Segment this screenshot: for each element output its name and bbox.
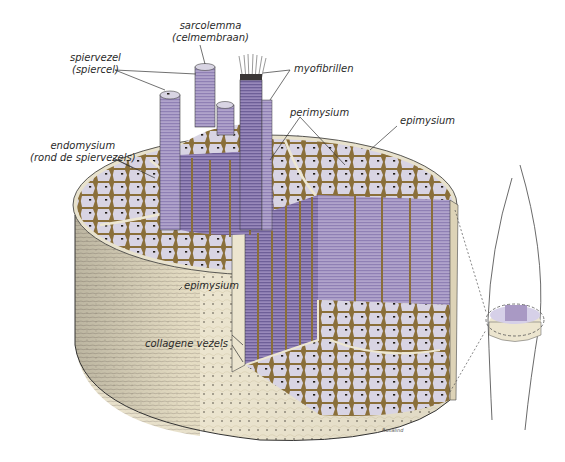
label-sarcolemma: sarcolemma (celmembraan) <box>172 20 249 44</box>
label-epimysium-side: epimysium <box>184 280 239 292</box>
label-endomysium-line2: (rond de spiervezels) <box>30 152 136 164</box>
artist-signature: Rosalind <box>382 427 403 433</box>
label-spiervezel-line1: spiervezel <box>70 52 121 64</box>
label-spiervezel: spiervezel (spiercel) <box>70 52 121 76</box>
muscle-fiber-middle <box>217 102 235 136</box>
muscle-diagram: sarcolemma (celmembraan) spiervezel (spi… <box>0 0 565 462</box>
muscle-fiber-sarcolemma <box>195 64 215 128</box>
muscle-fiber-left <box>160 91 180 230</box>
label-endomysium-line1: endomysium <box>30 140 136 152</box>
label-collagene-vezels: collagene vezels <box>145 338 228 350</box>
label-epimysium-top: epimysium <box>400 115 455 127</box>
fiber-bundle <box>160 54 275 237</box>
label-perimysium: perimysium <box>290 107 349 119</box>
label-sarcolemma-line2: (celmembraan) <box>172 32 249 44</box>
label-endomysium: endomysium (rond de spiervezels) <box>30 140 136 164</box>
label-myofibrillen: myofibrillen <box>294 63 354 75</box>
limb-cross-section-inset <box>486 304 544 342</box>
label-sarcolemma-line1: sarcolemma <box>172 20 249 32</box>
limb-outline <box>488 165 541 430</box>
label-spiervezel-line2: (spiercel) <box>70 64 121 76</box>
